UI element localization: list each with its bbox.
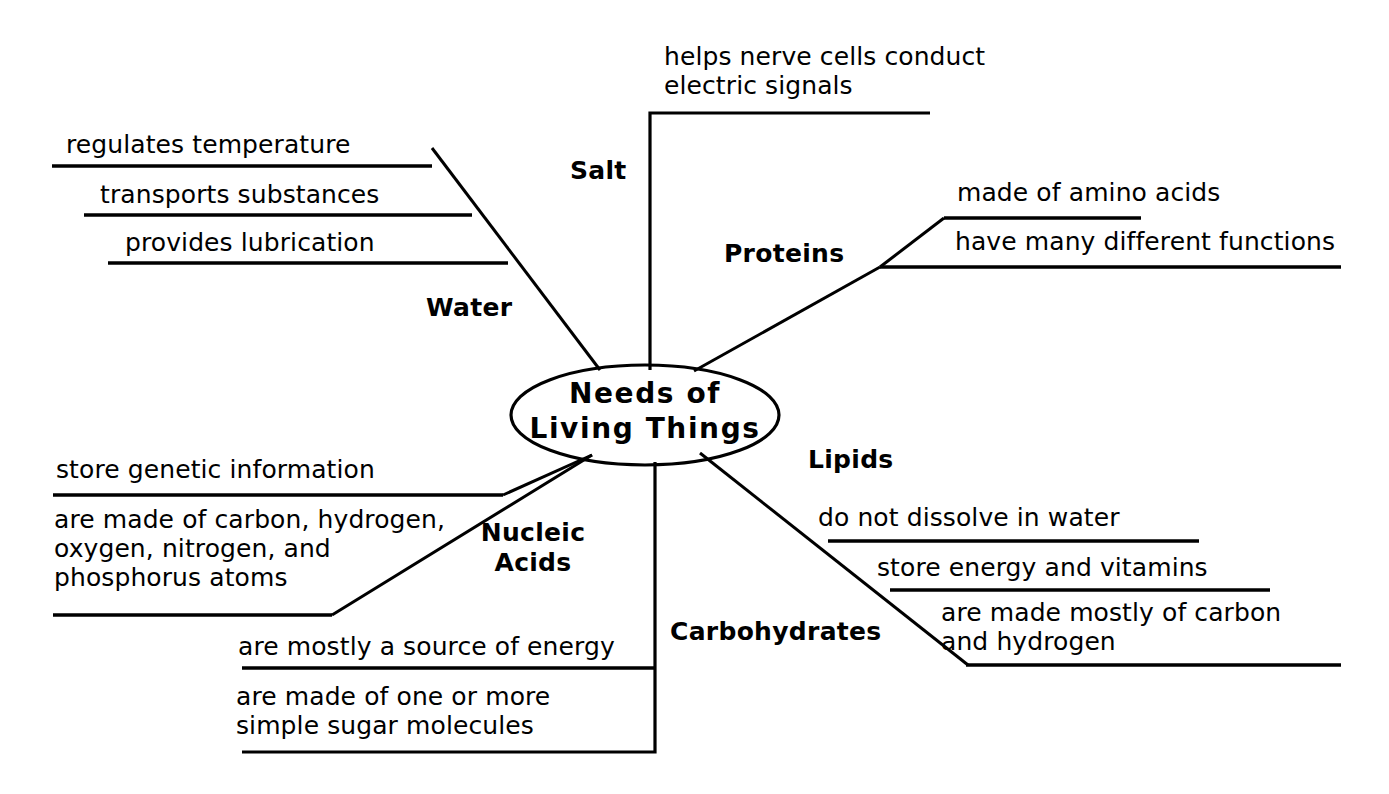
center-topic-label: Needs of Living Things <box>511 376 779 446</box>
proteins-spine <box>694 267 880 371</box>
branch-label-salt: Salt <box>570 156 627 186</box>
detail-water-1: regulates temperature <box>66 130 351 159</box>
detail-nucleic-acids-1: store genetic information <box>56 455 375 484</box>
detail-lipids-2: store energy and vitamins <box>877 553 1208 582</box>
detail-carbohydrates-1: are mostly a source of energy <box>238 632 615 661</box>
detail-lipids-1: do not dissolve in water <box>818 503 1120 532</box>
detail-lipids-3: are made mostly of carbon and hydrogen <box>941 598 1341 656</box>
detail-water-2: transports substances <box>100 180 379 209</box>
branch-label-proteins: Proteins <box>724 239 844 269</box>
detail-salt-1: helps nerve cells conduct electric signa… <box>664 42 1024 100</box>
concept-map-canvas: Needs of Living Things Water regulates t… <box>0 0 1389 794</box>
detail-carbohydrates-2: are made of one or more simple sugar mol… <box>236 682 666 740</box>
branch-label-water: Water <box>426 293 512 323</box>
detail-water-3: provides lubrication <box>125 228 375 257</box>
proteins-diagonal-connector <box>880 218 944 267</box>
detail-nucleic-acids-2: are made of carbon, hydrogen, oxygen, ni… <box>54 505 504 592</box>
nucleic-acids-upper-connector <box>503 455 592 495</box>
detail-proteins-1: made of amino acids <box>957 178 1220 207</box>
branch-label-carbohydrates: Carbohydrates <box>670 617 882 647</box>
branch-label-lipids: Lipids <box>808 445 894 475</box>
detail-proteins-2: have many different functions <box>955 227 1335 256</box>
